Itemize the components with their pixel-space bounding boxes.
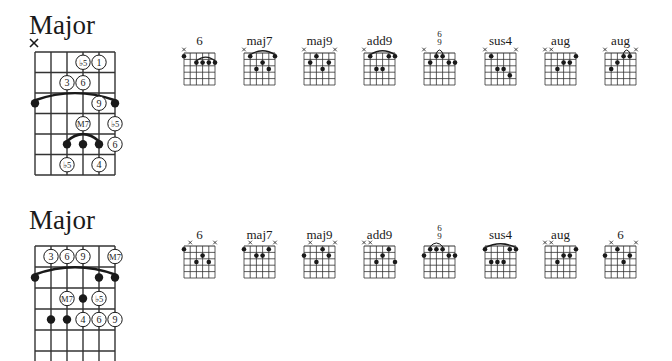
finger-dot xyxy=(327,253,332,258)
finger-dot xyxy=(447,253,452,258)
fretted-dot xyxy=(63,315,71,323)
finger-dot xyxy=(483,247,488,252)
scale-fretboard: ♭51369M7♭56♭54 xyxy=(30,39,122,175)
finger-dot xyxy=(609,67,614,72)
finger-dot xyxy=(508,247,513,252)
finger-dot xyxy=(200,253,205,258)
finger-dot xyxy=(207,60,212,65)
diagram-svg: ♭51369M7♭56♭54369M7M7♭5469 xyxy=(0,0,672,361)
finger-dot xyxy=(447,60,452,65)
finger-dot xyxy=(574,54,579,59)
interval-label: M7 xyxy=(77,119,89,129)
fretted-dot xyxy=(111,99,119,107)
finger-dot xyxy=(561,60,566,65)
chord-diagram-6 xyxy=(603,241,638,278)
finger-dot xyxy=(248,54,253,59)
finger-dot xyxy=(428,60,433,65)
finger-dot xyxy=(615,247,620,252)
finger-dot xyxy=(380,253,385,258)
fretted-dot xyxy=(95,273,103,281)
finger-dot xyxy=(368,54,373,59)
finger-dot xyxy=(621,54,626,59)
interval-label: M7 xyxy=(109,252,121,262)
finger-dot xyxy=(374,67,379,72)
chord-diagram-aug xyxy=(543,48,578,85)
chord-diagram-maj7 xyxy=(242,48,277,85)
finger-dot xyxy=(302,253,307,258)
interval-label: 3 xyxy=(49,251,54,262)
finger-dot xyxy=(194,260,199,265)
interval-label: 6 xyxy=(97,314,102,325)
finger-dot xyxy=(200,60,205,65)
finger-dot xyxy=(393,260,398,265)
finger-dot xyxy=(320,67,325,72)
finger-dot xyxy=(628,253,633,258)
finger-dot xyxy=(194,60,199,65)
finger-dot xyxy=(555,260,560,265)
fretted-dot xyxy=(31,273,39,281)
fretted-dot xyxy=(95,140,103,148)
finger-dot xyxy=(387,54,392,59)
finger-dot xyxy=(320,247,325,252)
chord-diagram-maj7 xyxy=(242,241,277,278)
finger-dot xyxy=(621,260,626,265)
chord-diagram-add9 xyxy=(362,48,397,85)
finger-dot xyxy=(242,247,247,252)
interval-label: 4 xyxy=(97,159,102,170)
finger-dot xyxy=(561,253,566,258)
chord-diagram-6-9 xyxy=(422,243,458,278)
finger-dot xyxy=(387,247,392,252)
fretted-dot xyxy=(31,99,39,107)
chord-diagram-aug xyxy=(543,241,578,278)
finger-dot xyxy=(574,247,579,252)
finger-dot xyxy=(501,67,506,72)
interval-label: 9 xyxy=(81,251,86,262)
finger-dot xyxy=(453,60,458,65)
finger-dot xyxy=(308,60,313,65)
chord-diagram-aug xyxy=(603,48,638,85)
interval-label: ♭5 xyxy=(79,58,87,68)
interval-label: 9 xyxy=(97,98,102,109)
finger-dot xyxy=(434,54,439,59)
finger-dot xyxy=(380,67,385,72)
finger-dot xyxy=(453,253,458,258)
finger-dot xyxy=(254,67,259,72)
finger-dot xyxy=(440,247,445,252)
finger-dot xyxy=(489,260,494,265)
interval-label: 6 xyxy=(81,77,86,88)
finger-dot xyxy=(568,60,573,65)
finger-dot xyxy=(568,253,573,258)
finger-dot xyxy=(501,260,506,265)
finger-dot xyxy=(182,247,187,252)
finger-dot xyxy=(628,54,633,59)
finger-dot xyxy=(182,54,187,59)
finger-dot xyxy=(314,260,319,265)
finger-dot xyxy=(434,247,439,252)
fretted-dot xyxy=(79,294,87,302)
finger-dot xyxy=(314,54,319,59)
interval-label: 3 xyxy=(65,77,70,88)
finger-dot xyxy=(615,60,620,65)
chord-diagram-sus4 xyxy=(483,244,519,278)
chord-diagram-maj9 xyxy=(302,48,337,85)
fretted-dot xyxy=(47,315,55,323)
finger-dot xyxy=(260,60,265,65)
interval-label: 4 xyxy=(81,314,86,325)
interval-label: ♭5 xyxy=(111,119,119,129)
interval-label: M7 xyxy=(61,294,73,304)
finger-dot xyxy=(273,54,278,59)
finger-dot xyxy=(260,253,265,258)
fretted-dot xyxy=(63,140,71,148)
interval-label: 1 xyxy=(97,57,102,68)
scale-fretboard: 369M7M7♭5469 xyxy=(31,246,122,361)
finger-dot xyxy=(603,253,608,258)
finger-dot xyxy=(213,60,218,65)
chord-diagram-6-9 xyxy=(422,48,457,85)
finger-dot xyxy=(495,260,500,265)
finger-dot xyxy=(254,253,259,258)
interval-label: ♭5 xyxy=(63,160,71,170)
chord-diagram-6 xyxy=(182,241,217,278)
finger-dot xyxy=(207,260,212,265)
chord-diagram-add9 xyxy=(362,241,397,278)
chord-diagram-sus4 xyxy=(483,48,518,85)
